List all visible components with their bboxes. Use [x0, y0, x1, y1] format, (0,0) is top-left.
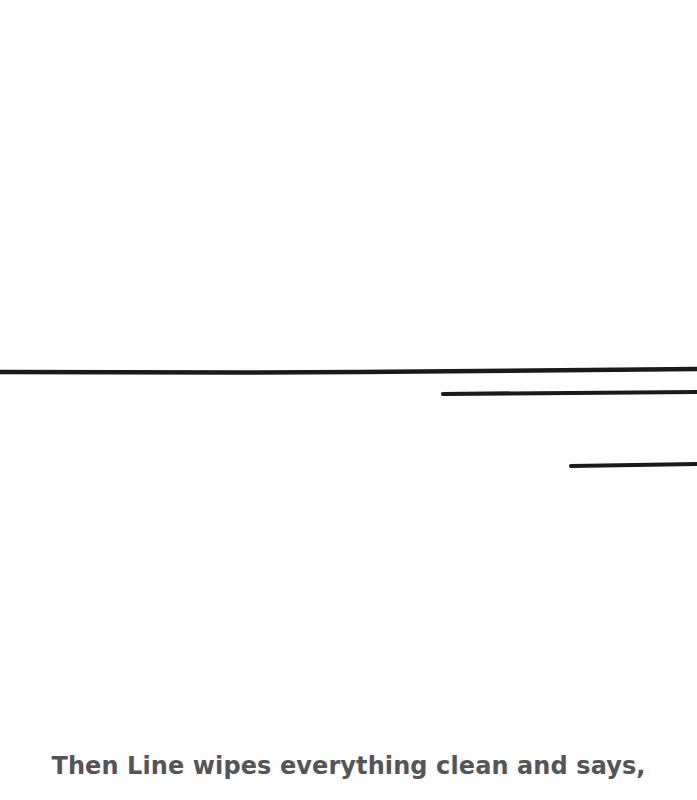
- book-page: Then Line wipes everything clean and say…: [0, 0, 697, 800]
- middle-line: [443, 392, 697, 394]
- short-line: [571, 464, 697, 466]
- caption-text: Then Line wipes everything clean and say…: [0, 752, 697, 780]
- long-line: [0, 369, 697, 372]
- line-drawing: [0, 0, 697, 800]
